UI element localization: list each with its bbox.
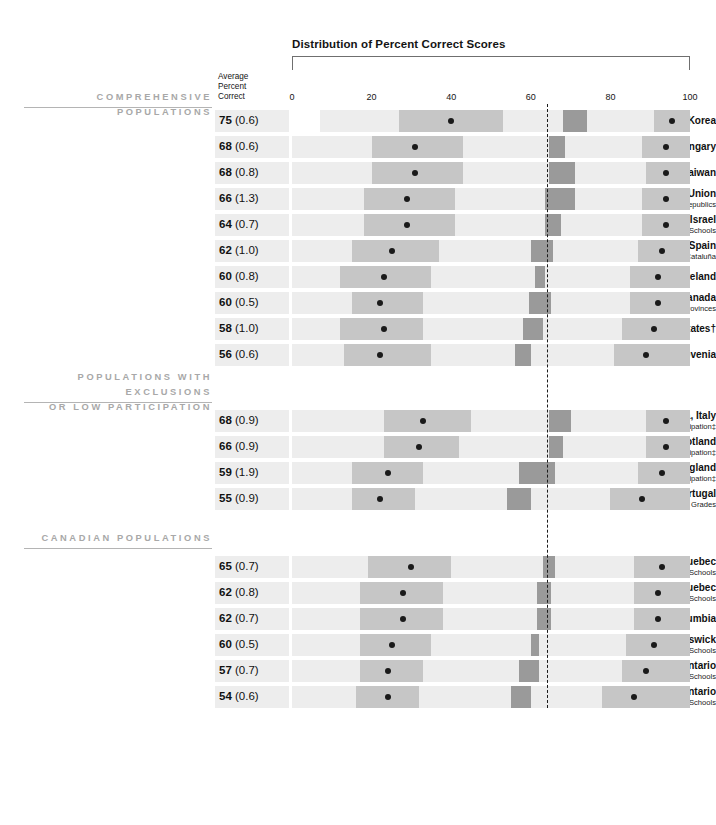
mean-marker-dot: [381, 274, 387, 280]
chart-row: Canada4 Provinces60 (0.5): [0, 292, 716, 314]
percentile-box-25-75: [352, 488, 416, 510]
percentile-box-upper: [626, 634, 690, 656]
upper-marker-dot: [643, 352, 649, 358]
row-distribution-plot: [0, 556, 716, 578]
row-distribution-plot: [0, 634, 716, 656]
stat-cell-background: [215, 436, 289, 458]
percentile-box-dark: [519, 660, 539, 682]
row-distribution-plot: [0, 110, 716, 132]
percent-correct-distribution-chart: Distribution of Percent Correct Scores A…: [0, 0, 716, 825]
mean-marker-dot: [377, 496, 383, 502]
percentile-band-5-95: [320, 110, 690, 132]
row-distribution-plot: [0, 188, 716, 210]
chart-row: ScotlandLow Participation‡66 (0.9): [0, 436, 716, 458]
stat-cell-background: [215, 556, 289, 578]
chart-row: United States†58 (1.0): [0, 318, 716, 340]
percentile-box-upper: [634, 582, 690, 604]
mean-marker-dot: [416, 444, 422, 450]
mean-marker-dot: [400, 616, 406, 622]
percentile-box-dark: [537, 582, 551, 604]
row-distribution-plot: [0, 582, 716, 604]
mean-marker-dot: [389, 642, 395, 648]
row-distribution-plot: [0, 266, 716, 288]
mean-marker-dot: [385, 470, 391, 476]
mean-marker-dot: [404, 196, 410, 202]
international-mean-reference-line: [547, 104, 548, 708]
row-distribution-plot: [0, 686, 716, 708]
upper-marker-dot: [663, 444, 669, 450]
percentile-box-25-75: [360, 634, 432, 656]
upper-marker-dot: [651, 642, 657, 648]
upper-marker-dot: [639, 496, 645, 502]
chart-row: Soviet UnionRussian-speaking Schools in …: [0, 188, 716, 210]
chart-row: Hungary68 (0.6): [0, 136, 716, 158]
upper-marker-dot: [631, 694, 637, 700]
stat-cell-background: [215, 214, 289, 236]
upper-marker-dot: [655, 616, 661, 622]
mean-marker-dot: [381, 326, 387, 332]
chart-row: British Columbia62 (0.7): [0, 608, 716, 630]
chart-row: New BrunswickEnglish-speaking Schools60 …: [0, 634, 716, 656]
percentile-band-5-95: [292, 162, 690, 184]
percentile-box-dark: [563, 110, 587, 132]
axis-tick-label: 80: [605, 92, 615, 102]
percentile-band-5-95: [292, 436, 690, 458]
mean-marker-dot: [448, 118, 454, 124]
mean-marker-dot: [400, 590, 406, 596]
percentile-band-5-95: [292, 136, 690, 158]
percentile-box-25-75: [352, 240, 440, 262]
stat-cell-background: [215, 266, 289, 288]
stat-cell-background: [215, 162, 289, 184]
stat-cell-background: [215, 110, 289, 132]
percentile-box-dark: [507, 488, 531, 510]
chart-row: Taiwan68 (0.8): [0, 162, 716, 184]
row-distribution-plot: [0, 292, 716, 314]
chart-row: Korea75 (0.6): [0, 110, 716, 132]
axis-tick-label: 60: [526, 92, 536, 102]
upper-marker-dot: [663, 222, 669, 228]
percentile-box-dark: [515, 344, 531, 366]
percentile-box-25-75: [344, 344, 432, 366]
section-header-exclusions: POPULATIONS WITH EXCLUSIONS OR LOW PARTI…: [0, 370, 212, 415]
stat-cell-background: [215, 240, 289, 262]
percentile-box-upper: [622, 660, 690, 682]
section-rule: [24, 107, 212, 108]
chart-row: SpainSpanish-speaking Schools except in …: [0, 240, 716, 262]
avg-header-line: Average: [218, 72, 284, 82]
percentile-box-dark: [549, 410, 571, 432]
chart-title: Distribution of Percent Correct Scores: [292, 38, 505, 50]
mean-marker-dot: [408, 564, 414, 570]
mean-marker-dot: [412, 144, 418, 150]
stat-cell-background: [215, 634, 289, 656]
mean-marker-dot: [377, 300, 383, 306]
percentile-box-dark: [511, 686, 531, 708]
percentile-box-dark: [545, 188, 575, 210]
upper-marker-dot: [659, 470, 665, 476]
upper-marker-dot: [651, 326, 657, 332]
percentile-band-5-95: [292, 214, 690, 236]
avg-header-line: Percent: [218, 82, 284, 92]
row-distribution-plot: [0, 608, 716, 630]
row-distribution-plot: [0, 436, 716, 458]
percentile-band-5-95: [292, 608, 690, 630]
stat-cell-background: [215, 410, 289, 432]
chart-row: OntarioFrench-speaking Schools54 (0.6): [0, 686, 716, 708]
stat-cell-background: [215, 344, 289, 366]
percentile-band-5-95: [292, 410, 690, 432]
stat-cell-background: [215, 660, 289, 682]
axis-tick-label: 0: [289, 92, 294, 102]
row-distribution-plot: [0, 410, 716, 432]
chart-row: Slovenia56 (0.6): [0, 344, 716, 366]
percentile-box-dark: [537, 608, 551, 630]
row-distribution-plot: [0, 240, 716, 262]
upper-marker-dot: [655, 590, 661, 596]
stat-cell-background: [215, 462, 289, 484]
mean-marker-dot: [404, 222, 410, 228]
axis-bracket: [292, 56, 690, 70]
percentile-band-5-95: [292, 582, 690, 604]
percentile-box-upper: [634, 608, 690, 630]
upper-marker-dot: [643, 668, 649, 674]
row-distribution-plot: [0, 660, 716, 682]
row-distribution-plot: [0, 214, 716, 236]
stat-cell-background: [215, 686, 289, 708]
